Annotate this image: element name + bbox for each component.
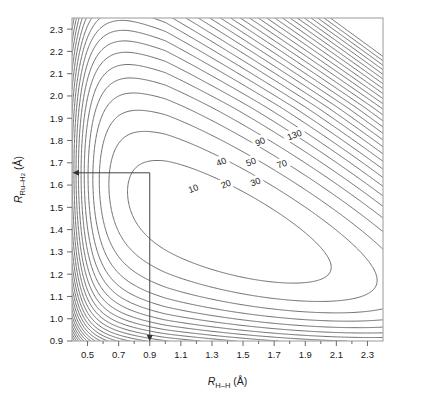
contour-line-270 bbox=[311, 18, 383, 70]
contour-plot-figure: 0.50.70.91.11.31.51.71.92.12.30.91.01.11… bbox=[0, 0, 421, 403]
y-tick-label: 1.5 bbox=[50, 202, 63, 213]
y-tick-label: 1.7 bbox=[50, 157, 63, 168]
contour-label: 130 bbox=[286, 128, 304, 143]
x-tick-label: 0.7 bbox=[112, 349, 125, 360]
contour-line-280 bbox=[318, 18, 383, 65]
y-tick-label: 2.3 bbox=[50, 24, 63, 35]
contour-line-20 bbox=[109, 131, 377, 301]
x-tick-label: 1.9 bbox=[299, 349, 312, 360]
x-tick-label: 1.7 bbox=[268, 349, 281, 360]
contour-line-40 bbox=[93, 93, 383, 321]
contour-line-130 bbox=[186, 18, 383, 147]
y-tick-label: 1.6 bbox=[50, 179, 63, 190]
plot-canvas: 0.50.70.91.11.31.51.71.92.12.30.91.01.11… bbox=[0, 0, 421, 403]
y-tick-label: 2.2 bbox=[50, 46, 63, 57]
contour-line-170 bbox=[231, 18, 383, 121]
contour-line-30 bbox=[99, 110, 383, 313]
y-tick-label: 1.2 bbox=[50, 269, 63, 280]
y-tick-label: 0.9 bbox=[50, 335, 63, 346]
y-tick-label: 1.0 bbox=[50, 313, 63, 324]
y-tick-label: 2.1 bbox=[50, 68, 63, 79]
y-tick-label: 1.4 bbox=[50, 224, 63, 235]
contour-line-120 bbox=[172, 18, 383, 154]
x-tick-label: 1.1 bbox=[174, 349, 187, 360]
contour-line-160 bbox=[220, 18, 383, 127]
contour-labels: 10203040507090130 bbox=[184, 126, 306, 196]
contour-line-220 bbox=[275, 18, 383, 94]
contour-line-290 bbox=[324, 18, 383, 61]
contour-line-80 bbox=[78, 41, 383, 341]
x-tick-label: 2.1 bbox=[330, 349, 343, 360]
y-tick-label: 1.8 bbox=[50, 135, 63, 146]
x-tick-label: 2.3 bbox=[361, 349, 374, 360]
y-tick-label: 1.3 bbox=[50, 246, 63, 257]
x-tick-label: 1.5 bbox=[236, 349, 249, 360]
contour-line-180 bbox=[240, 18, 383, 115]
y-tick-label: 1.9 bbox=[50, 113, 63, 124]
x-tick-label: 0.9 bbox=[143, 349, 156, 360]
contour-line-250 bbox=[297, 18, 383, 79]
y-axis-label: RRu–H2 (Å) bbox=[12, 156, 27, 203]
y-tick-label: 2.0 bbox=[50, 90, 63, 101]
x-tick-label: 1.3 bbox=[205, 349, 218, 360]
axis-ticks: 0.50.70.91.11.31.51.71.92.12.30.91.01.11… bbox=[50, 24, 374, 360]
y-tick-label: 1.1 bbox=[50, 291, 63, 302]
x-tick-label: 0.5 bbox=[81, 349, 94, 360]
x-axis-label: RH–H (Å) bbox=[208, 375, 248, 390]
